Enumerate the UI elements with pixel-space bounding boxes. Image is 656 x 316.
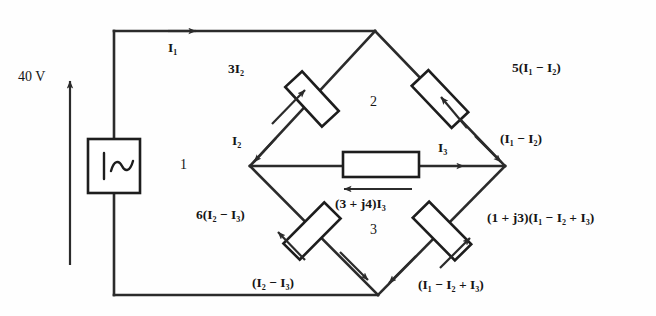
drop-label-lower-left: 6(I₂ − I₃): [196, 207, 245, 222]
current-arrow-i2-icon: [254, 138, 276, 162]
voltage-label: 40 V: [18, 69, 45, 84]
circuit-diagram: 40 V 1 2 3 I₁ 3I₂ I₂ 5(I₁ − I₂) (I₁ − I₂…: [0, 0, 656, 316]
current-upper-left: I₂: [232, 133, 276, 162]
current-label-i1-minus-i2: (I₁ − I₂): [500, 131, 542, 146]
current-arrow-i2-minus-i3-icon: [340, 252, 368, 280]
resistor-lower-left-body: [283, 202, 340, 259]
current-lower-left: (I₂ − I₃): [252, 252, 368, 290]
drop-arrow-upper-left-icon: [272, 90, 305, 124]
drop-label-lower-right: (1 + j3)(I₁ − I₂ + I₃): [487, 210, 594, 225]
drop-label-middle: (3 + j4)I₃: [335, 196, 386, 211]
current-label-i1-minus-i2-plus-i3: (I₁ − I₂ + I₃): [418, 277, 484, 292]
current-middle: I₃: [430, 140, 464, 166]
current-upper-right: (I₁ − I₂): [475, 131, 542, 162]
source-voltage-arrow: 40 V: [18, 69, 70, 265]
current-label-i2-minus-i3: (I₂ − I₃): [252, 275, 294, 290]
current-arrow-i1-minus-i2-icon: [475, 136, 501, 162]
voltage-source[interactable]: [88, 139, 140, 193]
drop-label-upper-right: 5(I₁ − I₂): [512, 60, 561, 75]
drop-lower-left: 6(I₂ − I₃): [196, 207, 305, 260]
resistor-lower-left[interactable]: [283, 202, 340, 259]
current-label-i1: I₁: [168, 40, 177, 55]
current-arrow-i1-minus-i2-plus-i3-icon: [389, 256, 416, 283]
resistor-middle[interactable]: [343, 152, 419, 177]
current-top-wire: I₁: [168, 31, 196, 55]
current-label-i3: I₃: [438, 140, 447, 155]
current-lower-right: (I₁ − I₂ + I₃): [389, 256, 484, 292]
loop-label-2: 2: [370, 94, 377, 109]
current-label-i2: I₂: [232, 133, 241, 148]
loop-label-3: 3: [370, 222, 377, 237]
drop-label-upper-left: 3I₂: [228, 61, 244, 76]
loop-label-1: 1: [180, 157, 187, 172]
drop-middle: (3 + j4)I₃: [335, 189, 412, 211]
drop-upper-right: 5(I₁ − I₂): [441, 60, 561, 128]
resistor-middle-body: [343, 152, 419, 177]
